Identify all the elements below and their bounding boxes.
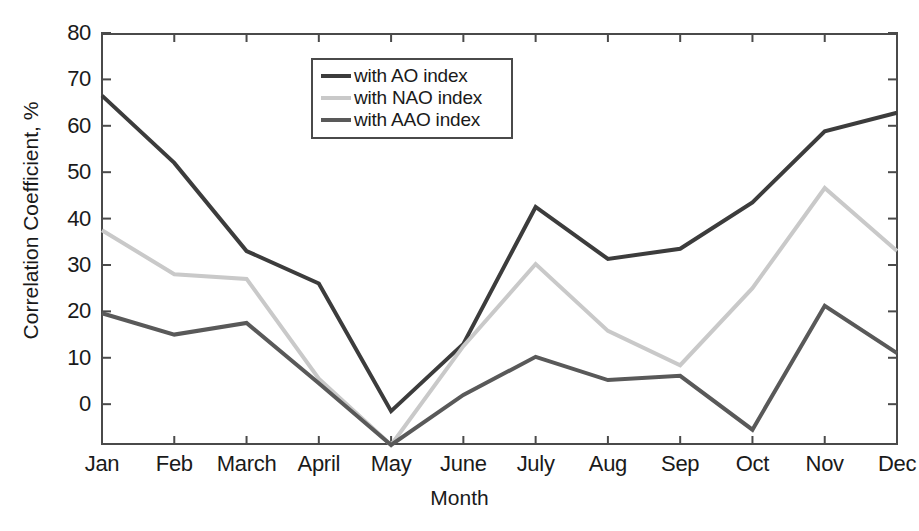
series-line-with-nao-index	[102, 188, 897, 445]
x-axis-tick-label: June	[440, 452, 487, 476]
legend-label: with AO index	[354, 66, 468, 86]
y-axis-tick-label: 60	[45, 115, 91, 137]
correlation-coefficient-line-chart: 80706050403020100 Correlation Coefficien…	[0, 0, 919, 531]
x-axis-tick-label: March	[217, 452, 277, 476]
x-axis-tick-label: Aug	[589, 452, 627, 476]
legend-item: with NAO index	[321, 87, 503, 109]
y-axis-title: Correlation Coefficient, %	[20, 51, 41, 391]
x-axis-tick-label: May	[371, 452, 412, 476]
legend-line-swatch	[321, 74, 351, 78]
y-axis-tick-label: 50	[45, 161, 91, 183]
legend-item: with AO index	[321, 65, 503, 87]
x-axis-tick-label: July	[517, 452, 555, 476]
x-axis-tick-label: Sep	[661, 452, 699, 476]
y-axis-tick-label: 40	[45, 208, 91, 230]
x-axis-tick-labels: JanFebMarchAprilMayJuneJulyAugSepOctNovD…	[0, 452, 919, 482]
x-axis-title: Month	[0, 487, 919, 508]
x-axis-tick-label: Dec	[878, 452, 916, 476]
y-axis-tick-label: 20	[45, 300, 91, 322]
x-axis-tick-label: Feb	[156, 452, 193, 476]
y-axis-tick-label: 0	[45, 393, 91, 415]
legend-label: with NAO index	[354, 88, 482, 108]
x-axis-tick-label: Oct	[736, 452, 769, 476]
y-axis-tick-label: 80	[45, 22, 91, 44]
data-series-group	[102, 96, 897, 445]
legend-line-swatch	[321, 118, 351, 122]
legend-label: with AAO index	[354, 110, 480, 130]
y-axis-tick-label: 30	[45, 254, 91, 276]
x-axis-tick-label: Jan	[85, 452, 120, 476]
chart-legend: with AO indexwith NAO indexwith AAO inde…	[311, 58, 513, 139]
x-axis-tick-label: Nov	[806, 452, 844, 476]
legend-item: with AAO index	[321, 109, 503, 131]
series-line-with-aao-index	[102, 306, 897, 445]
x-axis-tick-label: April	[298, 452, 341, 476]
legend-line-swatch	[321, 96, 351, 100]
y-axis-tick-label: 10	[45, 347, 91, 369]
y-axis-tick-label: 70	[45, 68, 91, 90]
